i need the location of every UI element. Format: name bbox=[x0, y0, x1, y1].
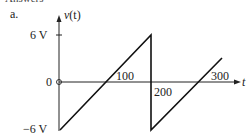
y-axis-label: v(t) bbox=[64, 9, 81, 21]
chart-plot bbox=[0, 0, 247, 134]
x-axis-arrow-icon bbox=[234, 80, 241, 85]
y-tick-label-top: 6 V bbox=[30, 29, 47, 41]
figure: Answers a. v(t) 6 V 0 −6 V 100 200 300 t bbox=[0, 0, 247, 134]
y-tick-label-bottom: −6 V bbox=[23, 123, 47, 134]
x-axis-label: t bbox=[242, 76, 245, 88]
x-tick-label-200: 200 bbox=[154, 86, 172, 98]
x-tick-label-100: 100 bbox=[116, 70, 134, 82]
x-tick-label-300: 300 bbox=[211, 70, 229, 82]
y-tick-label-zero: 0 bbox=[46, 76, 52, 88]
y-axis-arrow-icon bbox=[57, 15, 62, 22]
